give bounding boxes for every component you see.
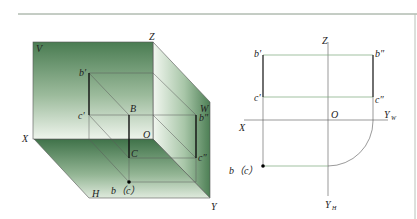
label-YW-sub: W xyxy=(391,115,397,121)
label-c-prime-right: c′ xyxy=(254,92,261,103)
label-C: C xyxy=(131,148,138,159)
orthographic-view: Z b′ b″ c′ c″ O X Y W b（c） Y H xyxy=(229,35,397,211)
label-B: B xyxy=(130,103,136,114)
label-c-prime: c′ xyxy=(78,110,85,121)
label-Z-right: Z xyxy=(322,35,328,46)
label-YW: Y xyxy=(384,109,391,120)
label-b-double-prime: b″ xyxy=(199,112,209,123)
label-c-double-prime: c″ xyxy=(198,152,207,163)
label-b-double-prime-right: b″ xyxy=(375,48,385,59)
transfer-arc xyxy=(328,121,373,166)
label-YH: Y xyxy=(325,199,332,210)
label-X-right: X xyxy=(238,122,246,133)
pictorial-view: V Z W X O H Y b′ c′ B C b″ c″ b（c） xyxy=(21,31,218,212)
point-bc xyxy=(127,180,131,184)
label-b-c: b（c） xyxy=(111,185,140,196)
label-b-c-right: b（c） xyxy=(229,165,258,176)
v-plane xyxy=(33,42,153,139)
projection-diagram: V Z W X O H Y b′ c′ B C b″ c″ b（c） xyxy=(0,0,417,219)
label-c-double-prime-right: c″ xyxy=(375,94,384,105)
label-O: O xyxy=(143,129,150,140)
label-YH-sub: H xyxy=(331,205,337,211)
label-H: H xyxy=(91,188,100,199)
label-b-prime-right: b′ xyxy=(254,48,262,59)
label-b-prime: b′ xyxy=(79,67,87,78)
top-view-point xyxy=(261,164,265,168)
label-O-right: O xyxy=(331,109,338,120)
label-Y: Y xyxy=(211,201,218,212)
label-X: X xyxy=(21,133,29,144)
label-Z: Z xyxy=(149,31,155,42)
